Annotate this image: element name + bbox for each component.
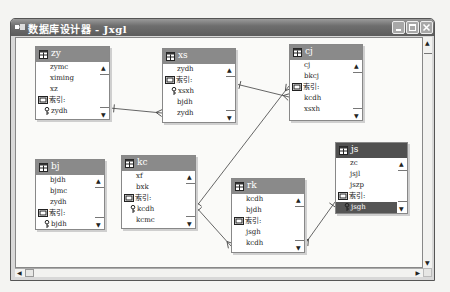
field-item[interactable]: jsjl [336,169,397,180]
horizontal-scroll-thumb[interactable] [25,269,34,277]
index-section-label[interactable]: 索引: [232,216,294,227]
index-icon [234,217,244,225]
table-header[interactable]: bj [36,160,104,175]
scroll-down-arrow-icon[interactable]: ▼ [227,114,232,121]
size-grip[interactable] [423,268,432,277]
index-item[interactable]: xsxh [163,86,225,97]
row-text: zydh [50,198,67,206]
relationship-line-xs-cj[interactable] [236,84,289,97]
field-item[interactable]: xf [122,171,185,182]
table-scrollbar[interactable]: ▲▼ [397,158,407,213]
field-item[interactable]: zydh [36,197,94,208]
table-icon [166,52,175,61]
database-designer-window: 数据库设计器 - Jxgl zyzymcximingxz索引:zydh▲▼xsz… [10,18,435,281]
field-item[interactable]: jszp [336,180,397,191]
scroll-down-arrow-icon[interactable]: ▼ [296,244,301,251]
index-item[interactable]: zydh [36,106,99,117]
table-rk[interactable]: rkkcdhbjdh索引:jsghkcdh▲▼ [231,178,305,253]
field-item[interactable]: jsgh [232,227,294,238]
relationship-line-kc-rk[interactable] [196,207,231,246]
scroll-track-mark [295,240,304,241]
field-item[interactable]: kcmc [122,215,185,226]
field-item[interactable]: zc [336,158,397,169]
table-scrollbar[interactable]: ▲▼ [99,62,109,119]
table-scrollbar[interactable]: ▲▼ [225,64,235,122]
scroll-up-arrow-icon[interactable]: ▲ [399,160,404,167]
horizontal-scrollbar[interactable]: ◀ ▶ [15,268,423,277]
field-item[interactable]: xz [36,84,99,95]
index-section-label[interactable]: 索引: [163,75,225,86]
scroll-track-mark [186,183,195,184]
field-item[interactable]: zydh [163,64,225,75]
row-text: zc [350,159,358,167]
scroll-down-arrow-icon[interactable]: ▼ [96,221,101,228]
index-section-label[interactable]: 索引: [122,193,185,204]
index-section-label[interactable]: 索引: [36,95,99,106]
index-item[interactable]: kcdh [122,204,185,215]
scroll-down-arrow-icon[interactable]: ▼ [425,260,430,266]
field-item[interactable]: bjdh [232,205,294,216]
table-cj[interactable]: cjcjbkcj索引:kcdhxsxh▲▼ [289,44,363,121]
index-section-label[interactable]: 索引: [290,82,352,93]
field-item[interactable]: kcdh [232,238,294,249]
table-header[interactable]: xs [163,49,235,64]
scroll-left-arrow-icon[interactable]: ◀ [17,270,22,276]
minimize-button[interactable] [392,21,405,34]
field-item[interactable]: bxk [122,182,185,193]
scroll-track-mark [186,216,195,217]
scroll-down-arrow-icon[interactable]: ▼ [399,205,404,212]
table-header[interactable]: zy [36,47,109,62]
index-section-label[interactable]: 索引: [336,191,397,202]
table-scrollbar[interactable]: ▲▼ [352,60,362,120]
table-header[interactable]: kc [122,156,195,171]
maximize-button[interactable] [406,21,419,34]
scroll-up-arrow-icon[interactable]: ▲ [187,173,192,180]
table-header[interactable]: js [336,143,407,158]
field-item[interactable]: ximing [36,73,99,84]
scroll-up-arrow-icon[interactable]: ▲ [101,64,106,71]
field-item[interactable]: xsxh [290,104,352,115]
one-end-marker-icon [195,201,201,206]
field-item[interactable]: zydh [163,108,225,119]
scroll-down-arrow-icon[interactable]: ▼ [187,220,192,227]
field-item[interactable]: kcdh [232,194,294,205]
table-zy[interactable]: zyzymcximingxz索引:zydh▲▼ [35,46,110,120]
table-scrollbar[interactable]: ▲▼ [185,171,195,228]
vertical-scrollbar[interactable]: ▲ ▼ [423,37,432,268]
scroll-up-arrow-icon[interactable]: ▲ [425,40,430,46]
field-item[interactable]: bjdh [163,97,225,108]
scroll-track-mark [95,187,104,188]
table-header[interactable]: rk [232,179,304,194]
table-scrollbar[interactable]: ▲▼ [294,194,304,252]
index-item[interactable]: jsgh [336,202,397,213]
close-button[interactable] [420,21,433,34]
table-bj[interactable]: bjbjdhbjmczydh索引:bjdh▲▼ [35,159,105,230]
scroll-up-arrow-icon[interactable]: ▲ [96,177,101,184]
scroll-down-arrow-icon[interactable]: ▼ [101,111,106,118]
index-item[interactable]: bjdh [36,219,94,230]
table-icon [235,182,244,191]
relationship-line-zy-xs[interactable] [110,108,162,113]
scroll-down-arrow-icon[interactable]: ▼ [354,112,359,119]
designer-canvas[interactable]: zyzymcximingxz索引:zydh▲▼xszydh索引:xsxhbjdh… [15,37,423,268]
index-section-label[interactable]: 索引: [36,208,94,219]
relationship-line-js-rk[interactable] [305,202,335,244]
field-item[interactable]: bjdh [36,175,94,186]
field-item[interactable]: kcdh [290,93,352,104]
scroll-up-arrow-icon[interactable]: ▲ [227,66,232,73]
scroll-thumb[interactable] [424,53,432,54]
scroll-right-arrow-icon[interactable]: ▶ [415,270,420,276]
title-bar[interactable]: 数据库设计器 - Jxgl [11,19,434,36]
table-kc[interactable]: kcxfbxk索引:kcdhkcmc▲▼ [121,155,196,229]
field-item[interactable]: bkcj [290,71,352,82]
field-item[interactable]: zymc [36,62,99,73]
scroll-up-arrow-icon[interactable]: ▲ [296,196,301,203]
scroll-up-arrow-icon[interactable]: ▲ [354,62,359,69]
field-item[interactable]: bjmc [36,186,94,197]
table-xs[interactable]: xszydh索引:xsxhbjdhzydh▲▼ [162,48,236,123]
table-header[interactable]: cj [290,45,362,60]
field-item[interactable]: cj [290,60,352,71]
primary-key-icon [130,205,136,213]
table-js[interactable]: jszcjsjljszp索引:jsgh▲▼ [335,142,408,214]
table-scrollbar[interactable]: ▲▼ [94,175,104,229]
